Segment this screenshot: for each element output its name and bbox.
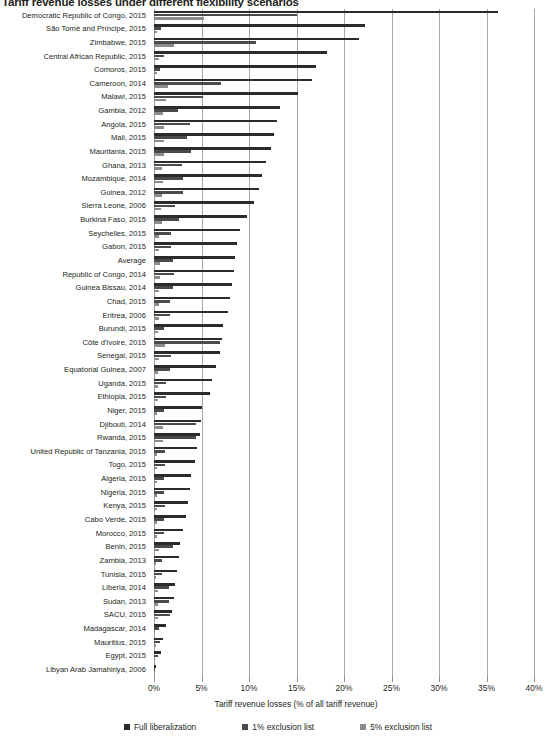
bar-five — [154, 317, 159, 320]
y-axis-label: Sudan, 2013 — [0, 598, 146, 606]
bar-full — [154, 365, 216, 368]
legend-item-full[interactable]: Full liberalization — [124, 722, 196, 732]
bar-one — [154, 450, 165, 453]
bar-one — [154, 341, 220, 344]
bar-full — [154, 515, 186, 518]
bar-group — [154, 159, 534, 173]
bar-group — [154, 77, 534, 91]
bar-five — [154, 467, 157, 470]
bar-full — [154, 460, 195, 463]
y-axis-label: Guinea Bissau, 2014 — [0, 284, 146, 292]
bar-five — [154, 249, 159, 252]
y-axis-label: Morocco, 2015 — [0, 530, 146, 538]
bar-one — [154, 68, 160, 71]
y-axis-label: Cameroon, 2014 — [0, 80, 146, 88]
chart-legend: Full liberalization1% exclusion list5% e… — [0, 722, 556, 732]
bar-group — [154, 282, 534, 296]
bar-one — [154, 55, 164, 58]
chart-title: Tariff revenue losses under different fl… — [2, 0, 432, 8]
bar-full — [154, 147, 271, 150]
bar-five — [154, 181, 163, 184]
bar-group — [154, 309, 534, 323]
legend-item-one[interactable]: 1% exclusion list — [242, 722, 314, 732]
bar-group — [154, 459, 534, 473]
bar-full — [154, 11, 498, 14]
bar-group — [154, 663, 534, 677]
y-axis-label: Mali, 2015 — [0, 134, 146, 142]
y-axis-label: Zambia, 2013 — [0, 557, 146, 565]
tick-mark-5% — [202, 677, 203, 682]
bar-one — [154, 491, 164, 494]
y-axis-label: Rwanda, 2015 — [0, 434, 146, 442]
bar-one — [154, 177, 183, 180]
bar-one — [154, 286, 173, 289]
bar-one — [154, 164, 182, 167]
y-axis-label: SACU, 2015 — [0, 611, 146, 619]
bar-one — [154, 477, 164, 480]
bar-group — [154, 268, 534, 282]
bar-group — [154, 145, 534, 159]
bar-full — [154, 79, 312, 82]
bar-full — [154, 529, 183, 532]
legend-item-five[interactable]: 5% exclusion list — [360, 722, 432, 732]
bar-full — [154, 665, 156, 668]
y-axis-label: Algeria, 2015 — [0, 475, 146, 483]
bar-five — [154, 453, 157, 456]
bar-five — [154, 194, 162, 197]
bar-full — [154, 324, 223, 327]
bar-five — [154, 644, 156, 647]
bar-one — [154, 27, 161, 30]
bar-group — [154, 527, 534, 541]
bar-one — [154, 586, 169, 589]
y-axis-label: Ethiopia, 2015 — [0, 393, 146, 401]
bar-group — [154, 336, 534, 350]
bar-group — [154, 473, 534, 487]
bar-five — [154, 630, 155, 633]
bar-five — [154, 590, 158, 593]
y-axis-label: Egypt, 2015 — [0, 652, 146, 660]
bar-five — [154, 303, 159, 306]
bar-full — [154, 311, 228, 314]
bar-one — [154, 668, 155, 671]
bar-group — [154, 91, 534, 105]
bar-full — [154, 24, 365, 27]
bar-group — [154, 227, 534, 241]
x-tick-label: 20% — [322, 683, 366, 693]
bar-group — [154, 104, 534, 118]
y-axis-label: Central African Republic, 2015 — [0, 53, 146, 61]
bar-five — [154, 58, 159, 61]
bar-group — [154, 36, 534, 50]
bar-five — [154, 208, 161, 211]
bar-full — [154, 638, 163, 641]
bar-group — [154, 404, 534, 418]
bar-one — [154, 409, 164, 412]
bar-full — [154, 447, 197, 450]
y-axis-label: Equatorial Guinea, 2007 — [0, 366, 146, 374]
bar-full — [154, 624, 166, 627]
bar-full — [154, 92, 298, 95]
bar-five — [154, 112, 163, 115]
y-axis-label: United Republic of Tanzania, 2015 — [0, 448, 146, 456]
bar-group — [154, 554, 534, 568]
y-axis-label: Guinea, 2012 — [0, 189, 146, 197]
y-axis-label: Eritrea, 2006 — [0, 312, 146, 320]
bar-one — [154, 246, 171, 249]
bar-group — [154, 568, 534, 582]
bar-one — [154, 259, 173, 262]
bar-group — [154, 582, 534, 596]
bar-full — [154, 65, 316, 68]
tick-mark-25% — [392, 677, 393, 682]
bar-five — [154, 358, 159, 361]
bar-one — [154, 436, 196, 439]
bar-five — [154, 331, 158, 334]
bar-five — [154, 85, 168, 88]
y-axis-label: Gambia, 2012 — [0, 107, 146, 115]
bar-full — [154, 392, 210, 395]
y-axis-label: Tunisia, 2015 — [0, 571, 146, 579]
y-axis-label: Mozambique, 2014 — [0, 175, 146, 183]
bar-one — [154, 368, 170, 371]
chart-root: Tariff revenue losses under different fl… — [0, 0, 556, 742]
bar-group — [154, 323, 534, 337]
bar-one — [154, 136, 187, 139]
legend-swatch-icon — [124, 724, 130, 730]
